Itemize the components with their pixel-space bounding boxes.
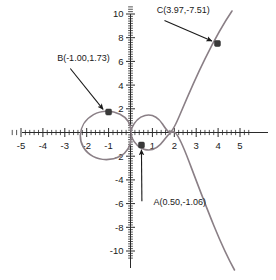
data-point-marker-a[interactable] bbox=[138, 142, 144, 148]
y-tick-label: 2 bbox=[118, 103, 123, 114]
y-tick-label: 8 bbox=[118, 32, 123, 43]
y-tick-label: -10 bbox=[110, 245, 124, 256]
y-tick-label: -8 bbox=[115, 222, 123, 233]
chart-figure: -5-4-3-2-112345108642-2-4-6-8-10 A(0.50,… bbox=[0, 0, 276, 280]
data-point-label-c: C(3.97,-7.51) bbox=[157, 5, 210, 15]
y-tick-label: 10 bbox=[113, 8, 124, 19]
annotations-group: A(0.50,-1.06)B(-1.00,1.73)C(3.97,-7.51) bbox=[57, 5, 220, 207]
x-tick-label: -5 bbox=[17, 140, 25, 151]
annotation-arrow-c bbox=[164, 21, 212, 42]
x-tick-label: 4 bbox=[215, 140, 220, 151]
curve-oval-component bbox=[80, 111, 131, 159]
annotation-arrow-b bbox=[70, 69, 103, 110]
x-tick-label: -4 bbox=[39, 140, 47, 151]
plot-svg: -5-4-3-2-112345108642-2-4-6-8-10 A(0.50,… bbox=[0, 0, 276, 280]
x-tick-label: 5 bbox=[237, 140, 242, 151]
y-tick-label: -4 bbox=[115, 174, 123, 185]
data-point-label-a: A(0.50,-1.06) bbox=[154, 197, 207, 207]
curve-upper-branch bbox=[131, 11, 232, 132]
data-point-marker-c[interactable] bbox=[214, 41, 220, 47]
data-point-label-b: B(-1.00,1.73) bbox=[57, 53, 110, 63]
data-point-marker-b[interactable] bbox=[106, 109, 112, 115]
y-tick-label: 6 bbox=[118, 56, 123, 67]
x-tick-label: -1 bbox=[104, 140, 112, 151]
x-tick-label: 2 bbox=[172, 140, 177, 151]
x-tick-label: -3 bbox=[61, 140, 69, 151]
y-tick-label: 4 bbox=[118, 80, 123, 91]
y-tick-label: -6 bbox=[115, 198, 123, 209]
x-tick-label: 3 bbox=[194, 140, 199, 151]
